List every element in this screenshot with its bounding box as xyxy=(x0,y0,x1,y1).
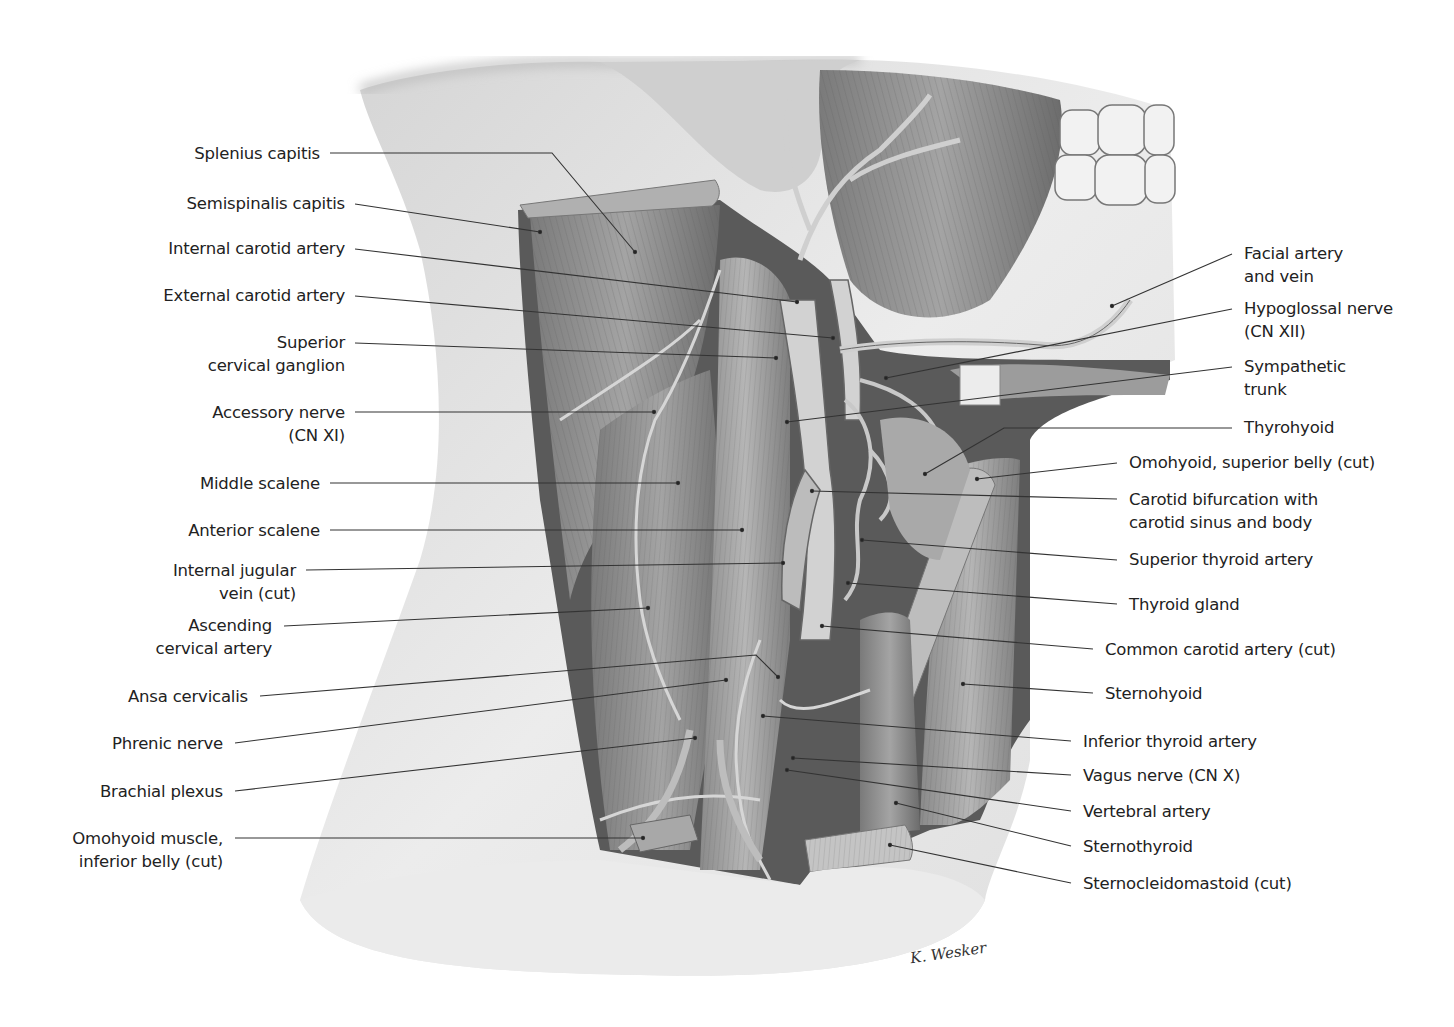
label-ascending-cervical-artery: Ascendingcervical artery xyxy=(156,614,272,660)
label-superior-thyroid-artery: Superior thyroid artery xyxy=(1129,548,1313,571)
label-line: Facial artery xyxy=(1244,242,1343,265)
label-line: Superior thyroid artery xyxy=(1129,548,1313,571)
label-line: (CN XI) xyxy=(212,424,345,447)
leader-endpoint xyxy=(888,843,891,846)
label-line: Vagus nerve (CN X) xyxy=(1083,764,1240,787)
label-brachial-plexus: Brachial plexus xyxy=(100,780,223,803)
label-semispinalis-capitis: Semispinalis capitis xyxy=(187,192,345,215)
label-thyroid-gland: Thyroid gland xyxy=(1129,593,1240,616)
leader-endpoint xyxy=(846,581,849,584)
label-line: trunk xyxy=(1244,378,1346,401)
leader-endpoint xyxy=(961,682,964,685)
label-line: Thyroid gland xyxy=(1129,593,1240,616)
leader-endpoint xyxy=(724,678,727,681)
teeth xyxy=(1055,105,1175,205)
label-omohyoid-superior-belly: Omohyoid, superior belly (cut) xyxy=(1129,451,1375,474)
label-splenius-capitis: Splenius capitis xyxy=(194,142,320,165)
label-superior-cervical-ganglion: Superiorcervical ganglion xyxy=(208,331,345,377)
label-line: Thyrohyoid xyxy=(1244,416,1334,439)
label-line: Internal carotid artery xyxy=(168,237,345,260)
label-line: cervical ganglion xyxy=(208,354,345,377)
label-inferior-thyroid-artery: Inferior thyroid artery xyxy=(1083,730,1257,753)
label-common-carotid-artery: Common carotid artery (cut) xyxy=(1105,638,1336,661)
label-ansa-cervicalis: Ansa cervicalis xyxy=(128,685,248,708)
label-sternocleidomastoid: Sternocleidomastoid (cut) xyxy=(1083,872,1292,895)
leader-endpoint xyxy=(538,230,541,233)
label-line: Sternohyoid xyxy=(1105,682,1202,705)
label-line: Vertebral artery xyxy=(1083,800,1211,823)
label-line: Accessory nerve xyxy=(212,401,345,424)
label-line: Omohyoid muscle, xyxy=(72,827,223,850)
label-line: carotid sinus and body xyxy=(1129,511,1318,534)
leader-endpoint xyxy=(740,528,743,531)
label-hypoglossal-nerve: Hypoglossal nerve(CN XII) xyxy=(1244,297,1393,343)
leader-endpoint xyxy=(785,420,788,423)
leader-endpoint xyxy=(633,250,636,253)
label-line: and vein xyxy=(1244,265,1343,288)
label-anterior-scalene: Anterior scalene xyxy=(188,519,320,542)
label-line: Phrenic nerve xyxy=(112,732,223,755)
leader-endpoint xyxy=(761,714,764,717)
sternothyroid-muscle xyxy=(860,613,920,836)
label-line: Semispinalis capitis xyxy=(187,192,345,215)
leader-endpoint xyxy=(641,836,644,839)
label-sternothyroid: Sternothyroid xyxy=(1083,835,1193,858)
label-vagus-nerve: Vagus nerve (CN X) xyxy=(1083,764,1240,787)
label-line: Hypoglossal nerve xyxy=(1244,297,1393,320)
hyoid-sling xyxy=(960,365,1000,405)
label-line: Omohyoid, superior belly (cut) xyxy=(1129,451,1375,474)
label-vertebral-artery: Vertebral artery xyxy=(1083,800,1211,823)
leader-endpoint xyxy=(774,356,777,359)
label-line: Internal jugular xyxy=(173,559,296,582)
label-thyrohyoid: Thyrohyoid xyxy=(1244,416,1334,439)
label-middle-scalene: Middle scalene xyxy=(200,472,320,495)
label-line: Inferior thyroid artery xyxy=(1083,730,1257,753)
leader-endpoint xyxy=(652,410,655,413)
leader-endpoint xyxy=(785,768,788,771)
label-line: Ansa cervicalis xyxy=(128,685,248,708)
leader-endpoint xyxy=(1110,304,1113,307)
leader-endpoint xyxy=(884,376,887,379)
leader-endpoint xyxy=(923,472,926,475)
label-external-carotid-artery: External carotid artery xyxy=(163,284,345,307)
label-line: cervical artery xyxy=(156,637,272,660)
leader-endpoint xyxy=(795,300,798,303)
label-line: Splenius capitis xyxy=(194,142,320,165)
label-omohyoid-inferior-belly: Omohyoid muscle,inferior belly (cut) xyxy=(72,827,223,873)
label-line: Sternocleidomastoid (cut) xyxy=(1083,872,1292,895)
label-line: Brachial plexus xyxy=(100,780,223,803)
label-line: Middle scalene xyxy=(200,472,320,495)
leader-endpoint xyxy=(860,538,863,541)
leader-endpoint xyxy=(810,489,813,492)
label-carotid-bifurcation: Carotid bifurcation withcarotid sinus an… xyxy=(1129,488,1318,534)
leader-endpoint xyxy=(693,736,696,739)
leader-endpoint xyxy=(791,756,794,759)
label-internal-jugular-vein: Internal jugularvein (cut) xyxy=(173,559,296,605)
lower-skin-flap xyxy=(300,860,985,976)
label-line: Anterior scalene xyxy=(188,519,320,542)
leader-endpoint xyxy=(676,481,679,484)
label-line: vein (cut) xyxy=(173,582,296,605)
leader-endpoint xyxy=(781,561,784,564)
label-line: Superior xyxy=(208,331,345,354)
label-sympathetic-trunk: Sympathetictrunk xyxy=(1244,355,1346,401)
label-line: inferior belly (cut) xyxy=(72,850,223,873)
leader-endpoint xyxy=(894,801,897,804)
leader-endpoint xyxy=(831,336,834,339)
leader-endpoint xyxy=(776,675,779,678)
leader-endpoint xyxy=(975,477,978,480)
label-phrenic-nerve: Phrenic nerve xyxy=(112,732,223,755)
label-internal-carotid-artery: Internal carotid artery xyxy=(168,237,345,260)
label-line: Carotid bifurcation with xyxy=(1129,488,1318,511)
label-line: (CN XII) xyxy=(1244,320,1393,343)
leader-endpoint xyxy=(646,606,649,609)
leader-endpoint xyxy=(820,624,823,627)
label-line: Common carotid artery (cut) xyxy=(1105,638,1336,661)
label-line: External carotid artery xyxy=(163,284,345,307)
label-line: Sympathetic xyxy=(1244,355,1346,378)
label-accessory-nerve: Accessory nerve(CN XI) xyxy=(212,401,345,447)
label-sternohyoid: Sternohyoid xyxy=(1105,682,1202,705)
label-line: Sternothyroid xyxy=(1083,835,1193,858)
label-line: Ascending xyxy=(156,614,272,637)
label-facial-artery-and-vein: Facial arteryand vein xyxy=(1244,242,1343,288)
